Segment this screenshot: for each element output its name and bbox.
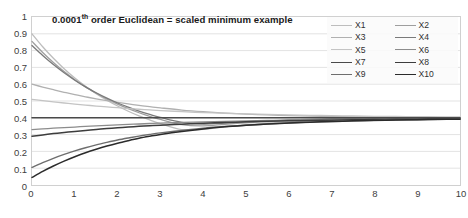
legend-swatch-icon [331,62,352,63]
legend-label: X6 [419,46,430,55]
y-tick-label: 0.4 [14,113,27,124]
legend-label: X5 [355,46,366,55]
y-tick-label: 1 [22,11,27,22]
legend-label: X8 [419,58,430,67]
x-tick-label: 9 [415,188,420,199]
x-tick-label: 5 [243,188,248,199]
y-tick-label: 0.2 [14,147,27,158]
x-tick-label: 3 [157,188,162,199]
legend-swatch-icon [395,49,416,50]
legend-item-x1[interactable]: X1 [331,21,392,30]
x-tick-label: 8 [372,188,377,199]
y-tick-label: 0.8 [14,45,27,56]
x-tick-label: 6 [286,188,291,199]
legend-item-x8[interactable]: X8 [395,58,456,67]
legend-swatch-icon [395,37,416,38]
y-axis: 10.90.80.70.60.50.40.30.20.10 [0,16,27,186]
y-tick-label: 0.5 [14,96,27,107]
y-tick-label: 0.9 [14,28,27,39]
legend-item-x2[interactable]: X2 [395,21,456,30]
legend-label: X7 [355,58,366,67]
x-tick-label: 10 [456,188,467,199]
title-superscript: th [82,13,89,20]
x-tick-label: 7 [329,188,334,199]
legend-item-x6[interactable]: X6 [395,46,456,55]
legend-item-x3[interactable]: X3 [331,33,392,42]
x-tick-label: 2 [114,188,119,199]
legend-swatch-icon [395,74,416,75]
legend-swatch-icon [331,25,352,26]
x-tick-label: 4 [200,188,205,199]
chart-container: 10.90.80.70.60.50.40.30.20.10 0123456789… [0,0,468,218]
legend-item-x5[interactable]: X5 [331,46,392,55]
legend-label: X9 [355,70,366,79]
y-tick-label: 0.3 [14,130,27,141]
legend-swatch-icon [395,62,416,63]
legend-swatch-icon [395,25,416,26]
legend-item-x7[interactable]: X7 [331,58,392,67]
series-line-x3 [32,84,460,117]
legend-swatch-icon [331,37,352,38]
y-tick-label: 0 [22,181,27,192]
legend-item-x10[interactable]: X10 [395,70,456,79]
x-tick-label: 0 [28,188,33,199]
chart-legend: X1X2X3X4X5X6X7X8X9X10 [327,17,458,83]
legend-label: X2 [419,21,430,30]
series-line-x10 [32,119,460,177]
legend-label: X10 [419,70,434,79]
x-axis: 012345678910 [31,188,461,204]
chart-title: 0.0001th order Euclidean = scaled minimu… [52,14,293,25]
legend-label: X1 [355,21,366,30]
legend-item-x4[interactable]: X4 [395,33,456,42]
series-line-x8 [32,119,460,136]
y-tick-label: 0.1 [14,164,27,175]
legend-label: X3 [355,33,366,42]
legend-swatch-icon [331,49,352,50]
series-line-x5 [32,99,460,117]
legend-label: X4 [419,33,430,42]
legend-item-x9[interactable]: X9 [331,70,392,79]
y-tick-label: 0.6 [14,79,27,90]
legend-swatch-icon [331,74,352,75]
x-tick-label: 1 [71,188,76,199]
y-tick-label: 0.7 [14,62,27,73]
